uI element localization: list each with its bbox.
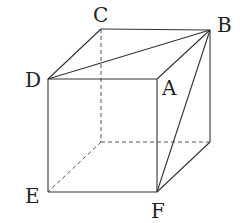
- vertex-label-c: C: [93, 3, 108, 27]
- vertex-label-d: D: [25, 68, 41, 92]
- vertex-label-b: B: [217, 13, 232, 37]
- hidden-edge-ge: [48, 142, 101, 192]
- vertex-label-e: E: [25, 184, 40, 208]
- edge-cb: [101, 29, 210, 30]
- cube-diagram: C B D A E F: [0, 0, 243, 223]
- diagonal-db: [48, 30, 210, 79]
- vertex-label-a: A: [161, 76, 177, 100]
- vertex-label-f: F: [151, 199, 165, 223]
